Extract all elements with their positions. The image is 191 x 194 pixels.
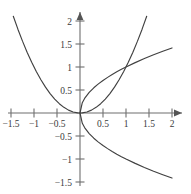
y-axis — [77, 12, 84, 186]
y-tick-label-neg0p5: −0.5 — [55, 132, 72, 142]
x-tick-label-1p5: 1.5 — [143, 119, 155, 129]
x-tick-labels: −1.5 −1 −0.5 0.5 1 1.5 2 — [2, 119, 174, 129]
curve-sqrt-x-positive — [80, 48, 172, 113]
graph-figure: −1.5 −1 −0.5 0.5 1 1.5 2 2 1.5 1 0.5 −0.… — [0, 0, 191, 194]
y-tick-label-neg1: −1 — [62, 155, 72, 165]
curves — [13, 16, 172, 178]
x-tick-label-neg1: −1 — [29, 119, 39, 129]
plot-area: −1.5 −1 −0.5 0.5 1 1.5 2 2 1.5 1 0.5 −0.… — [0, 0, 191, 194]
y-axis-arrow-icon — [77, 12, 84, 20]
x-tick-label-neg0p5: −0.5 — [48, 119, 65, 129]
y-tick-label-2: 2 — [67, 17, 72, 27]
y-tick-label-1p5: 1.5 — [60, 40, 72, 50]
y-tick-label-neg1p5: −1.5 — [55, 178, 72, 188]
y-tick-label-1: 1 — [67, 63, 72, 73]
x-tick-label-neg1p5: −1.5 — [2, 119, 19, 129]
x-tick-label-0p5: 0.5 — [97, 119, 109, 129]
y-tick-label-0p5: 0.5 — [60, 86, 72, 96]
x-tick-label-2: 2 — [170, 119, 175, 129]
x-axis-arrow-icon — [174, 110, 182, 117]
x-tick-label-1: 1 — [124, 119, 129, 129]
